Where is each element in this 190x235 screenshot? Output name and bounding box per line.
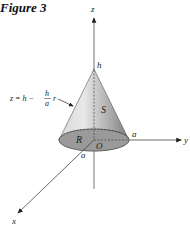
- equation-denominator: a: [45, 99, 49, 108]
- z-axis-label: z: [90, 4, 95, 14]
- equation-numerator: h: [45, 89, 49, 98]
- y-axis-label: y: [183, 135, 188, 145]
- radius-y-label: a: [132, 129, 137, 139]
- cone-diagram: z h S R O a a y x z = h − h a r: [0, 0, 190, 235]
- equation-variable: r: [53, 94, 57, 103]
- radius-x-label: a: [81, 150, 86, 160]
- surface-label: S: [101, 104, 106, 115]
- region-label: R: [75, 134, 82, 145]
- equation-lhs: z = h −: [9, 94, 34, 103]
- apex-label: h: [97, 60, 102, 70]
- x-axis-label: x: [11, 216, 16, 226]
- origin-label: O: [96, 141, 103, 151]
